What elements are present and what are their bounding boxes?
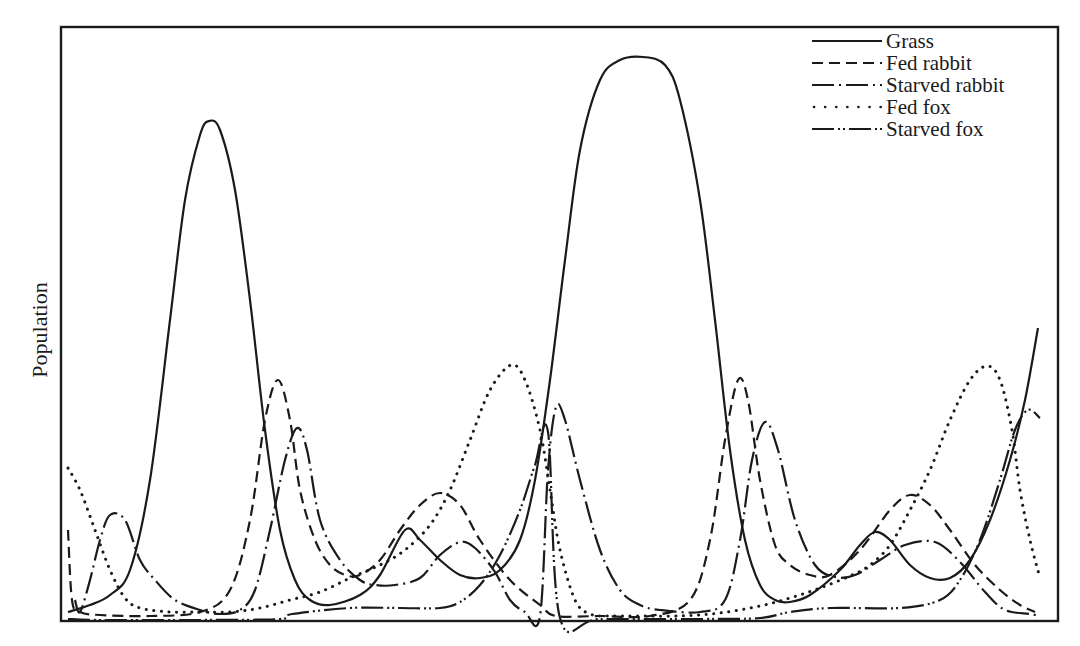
series-layer [68,57,1040,633]
legend-label: Starved fox [886,118,983,140]
legend-item-starved-fox: Starved fox [812,118,1004,140]
dash-dot-line-icon [812,80,882,90]
dotted-line-icon [812,102,882,112]
legend-item-grass: Grass [812,30,1004,52]
solid-line-icon [812,36,882,46]
legend-label: Starved rabbit [886,74,1004,96]
series-starved-rabbit [75,404,1040,626]
dash-dot-dot-line-icon [812,124,882,134]
legend-label: Grass [886,30,934,52]
legend-item-fed-rabbit: Fed rabbit [812,52,1004,74]
legend-label: Fed rabbit [886,52,972,74]
y-axis-label: Population [27,282,53,377]
legend: Grass Fed rabbit Starved rabbit Fed fox … [812,30,1004,140]
legend-item-starved-rabbit: Starved rabbit [812,74,1004,96]
legend-label: Fed fox [886,96,951,118]
legend-item-fed-fox: Fed fox [812,96,1004,118]
dashed-line-icon [812,58,882,68]
